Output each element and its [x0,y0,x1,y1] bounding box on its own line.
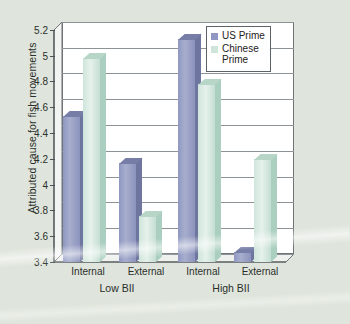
bar-side [156,210,162,262]
legend-label-chinese-prime-line2: Prime [222,54,248,65]
bar-side [100,53,106,262]
bar-face [254,159,271,262]
y-tick-label: 4.2 [18,153,48,164]
x-tick-label-high-internal: Internal [186,266,219,277]
bar-chinese-prime-low-external [139,216,156,262]
x-tick-label-high-external: External [242,266,279,277]
bar-side [215,79,221,262]
y-tick-label: 4.4 [18,128,48,139]
bar-side [271,154,277,262]
legend-label-chinese-prime: Chinese [222,43,259,54]
legend-item-chinese-prime: Chinese Prime [211,43,265,66]
bar-face [234,252,251,262]
y-tick-label: 4 [18,179,48,190]
bar-face [198,84,215,262]
y-tick-label: 5.2 [18,24,48,35]
y-tick-label: 3.4 [18,257,48,268]
bar-face [63,116,80,262]
y-tick-label: 3.8 [18,205,48,216]
x-tick-label-low-internal: Internal [71,266,104,277]
bar-chinese-prime-high-external [254,159,271,262]
bar-face [178,39,195,262]
x-group-label-high-bii: High BII [212,282,249,294]
bar-chinese-prime-high-internal [198,84,215,262]
legend-label-us-prime: US Prime [222,30,265,42]
x-tick-label-low-external: External [128,266,165,277]
legend: US Prime Chinese Prime [206,26,271,72]
y-tick-label: 4.6 [18,102,48,113]
bar-us-prime-high-external [234,252,251,262]
bar-chinese-prime-low-internal [83,58,100,262]
legend-item-us-prime: US Prime [211,30,265,42]
y-tick-label: 5 [18,50,48,61]
bar-us-prime-low-external [119,163,136,262]
bar-face [83,58,100,262]
bar-us-prime-high-internal [178,39,195,262]
x-group-label-low-bii: Low BII [99,282,134,294]
bar-us-prime-low-internal [63,116,80,262]
y-tick-label: 3.6 [18,231,48,242]
legend-swatch-chinese-prime-icon [211,46,218,53]
bar-face [139,216,156,262]
legend-swatch-us-prime-icon [211,33,218,40]
bar-face [119,163,136,262]
y-tick-label: 4.8 [18,76,48,87]
